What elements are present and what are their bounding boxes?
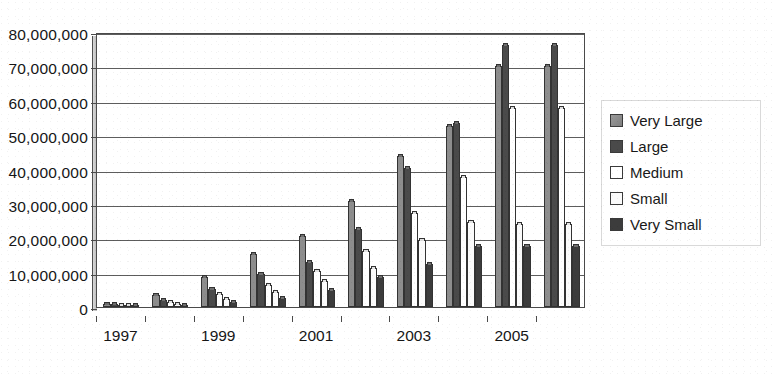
plot-area	[96, 33, 585, 308]
bar	[516, 224, 523, 307]
bar	[348, 201, 355, 307]
bar-top-cap	[545, 64, 550, 67]
bar	[377, 277, 384, 307]
bar-top-cap	[133, 303, 138, 306]
bar-top-cap	[524, 244, 529, 247]
bar	[370, 268, 377, 307]
bar	[125, 305, 132, 307]
bar	[118, 305, 125, 307]
bar	[152, 295, 159, 307]
x-tick-mark	[243, 316, 244, 322]
bar	[201, 277, 208, 307]
bar-top-cap	[251, 252, 256, 255]
bar-top-cap	[112, 302, 117, 305]
bar	[313, 271, 320, 307]
bar-top-cap	[517, 222, 522, 225]
bar-top-cap	[273, 290, 278, 293]
bar	[558, 108, 565, 307]
bar-top-cap	[314, 269, 319, 272]
bar	[174, 304, 181, 307]
bar	[355, 229, 362, 307]
bar-top-cap	[329, 288, 334, 291]
bar	[272, 292, 279, 307]
bar	[446, 126, 453, 308]
bar-chart: 010,000,00020,000,00030,000,00040,000,00…	[0, 0, 775, 375]
bar	[160, 300, 167, 307]
bar-top-cap	[461, 175, 466, 178]
bar-top-cap	[209, 287, 214, 290]
bar	[475, 246, 482, 307]
bar	[132, 305, 139, 307]
x-tick-label: 2005	[494, 327, 528, 345]
bar-top-cap	[427, 262, 432, 265]
x-tick-mark	[96, 316, 97, 322]
y-tick-label: 10,000,000	[0, 268, 88, 284]
bar	[572, 246, 579, 307]
bar-top-cap	[371, 266, 376, 269]
bar	[230, 302, 237, 308]
bar-top-cap	[510, 106, 515, 109]
bar	[565, 224, 572, 307]
x-tick-mark	[536, 316, 537, 322]
bar	[257, 274, 264, 307]
bar-top-cap	[363, 249, 368, 252]
bar	[279, 298, 286, 307]
bar	[321, 281, 328, 307]
bar-top-cap	[119, 303, 124, 306]
bar	[223, 299, 230, 307]
legend-label: Very Large	[630, 113, 703, 128]
bar	[208, 289, 215, 307]
bar	[167, 302, 174, 307]
bar-top-cap	[573, 244, 578, 247]
bar-top-cap	[476, 244, 481, 247]
bar-top-cap	[349, 199, 354, 202]
y-tick-label: 60,000,000	[0, 96, 88, 112]
bar-group	[244, 34, 293, 307]
bar-top-cap	[161, 298, 166, 301]
legend-item: Very Small	[610, 211, 752, 237]
bar-top-cap	[224, 297, 229, 300]
legend-item: Medium	[610, 159, 752, 185]
legend-item: Large	[610, 133, 752, 159]
bar-top-cap	[378, 275, 383, 278]
bar-top-cap	[168, 300, 173, 303]
bar-top-cap	[126, 303, 131, 306]
x-tick-mark	[389, 316, 390, 322]
x-tick-label: 2003	[397, 327, 431, 345]
bar-group	[439, 34, 488, 307]
x-tick-mark	[487, 316, 488, 322]
bar-top-cap	[175, 302, 180, 305]
legend-swatch-icon	[610, 166, 623, 179]
bar-top-cap	[454, 121, 459, 124]
bar-group	[293, 34, 342, 307]
bar	[250, 254, 257, 307]
bar	[467, 222, 474, 307]
legend-swatch-icon	[610, 218, 623, 231]
bar-top-cap	[258, 272, 263, 275]
x-tick-mark	[341, 316, 342, 322]
bar	[216, 294, 223, 307]
bar	[544, 66, 551, 307]
x-tick-mark	[438, 316, 439, 322]
bar	[328, 290, 335, 307]
bar	[426, 264, 433, 307]
bar-top-cap	[468, 220, 473, 223]
y-tick-label: 70,000,000	[0, 61, 88, 77]
bar-top-cap	[202, 275, 207, 278]
bar	[111, 304, 118, 307]
bar-top-cap	[280, 296, 285, 299]
bar-top-cap	[559, 106, 564, 109]
x-tick-mark	[194, 316, 195, 322]
legend-label: Small	[630, 191, 668, 206]
bar-top-cap	[322, 279, 327, 282]
y-tick-label: 50,000,000	[0, 130, 88, 146]
bar-group	[195, 34, 244, 307]
bar-top-cap	[412, 211, 417, 214]
bar	[453, 123, 460, 307]
y-tick-mark	[91, 309, 97, 310]
legend-label: Large	[630, 139, 668, 154]
bar	[411, 213, 418, 307]
bars-layer	[97, 34, 584, 307]
bar-top-cap	[300, 234, 305, 237]
bar	[404, 168, 411, 307]
